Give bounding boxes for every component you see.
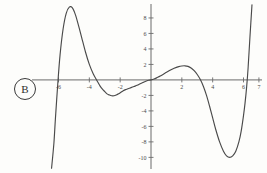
tick-labels: -6-4-224678642-2-4-6-8-10 [56, 15, 260, 160]
x-tick-label: -2 [118, 84, 123, 90]
x-tick-label: 7 [257, 84, 260, 90]
y-tick-label: -10 [139, 155, 147, 161]
x-tick-label: 4 [211, 84, 214, 90]
y-tick-label: 4 [144, 46, 147, 52]
y-tick-label: -6 [142, 124, 147, 130]
x-tick-label: 2 [180, 84, 183, 90]
curve-series [52, 5, 252, 168]
y-tick-label: 8 [144, 15, 147, 21]
x-tick-label: 6 [242, 84, 245, 90]
function-graph: -6-4-224678642-2-4-6-8-10 [0, 0, 267, 173]
y-tick-label: 2 [144, 62, 147, 68]
x-tick-label: -6 [56, 84, 61, 90]
axes [32, 4, 262, 169]
y-tick-label: 6 [144, 31, 147, 37]
figure-panel: B -6-4-224678642-2-4-6-8-10 [0, 0, 267, 173]
y-tick-label: -2 [142, 93, 147, 99]
y-tick-label: -8 [142, 139, 147, 145]
curve-path [52, 5, 252, 168]
x-tick-label: -4 [87, 84, 92, 90]
y-tick-label: -4 [142, 108, 147, 114]
